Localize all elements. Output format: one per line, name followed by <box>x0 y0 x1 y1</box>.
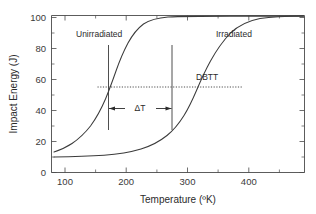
y-tick-label-80: 80 <box>35 43 46 54</box>
x-tick-label-400: 400 <box>241 176 257 187</box>
impact-energy-vs-temperature-chart: 0 20 40 60 80 100 100 200 300 400 Temper… <box>0 0 316 214</box>
y-axis-title: Impact Energy (J) <box>8 55 19 134</box>
x-axis-title: Temperature (ºK) <box>140 194 216 205</box>
delta-t-label: ΔT <box>135 103 146 113</box>
unirradiated-label: Unirradiated <box>76 29 123 39</box>
x-tick-label-300: 300 <box>180 176 196 187</box>
y-tick-label-100: 100 <box>30 12 46 23</box>
chart-background <box>0 0 316 214</box>
chart-figure-page: 0 20 40 60 80 100 100 200 300 400 Temper… <box>0 0 316 214</box>
y-tick-label-0: 0 <box>41 167 46 178</box>
irradiated-label: Irradiated <box>216 29 252 39</box>
dbtt-label: DBTT <box>196 72 218 82</box>
y-tick-label-60: 60 <box>35 74 46 85</box>
x-tick-label-200: 200 <box>118 176 134 187</box>
y-tick-label-20: 20 <box>35 136 46 147</box>
x-tick-label-100: 100 <box>57 176 73 187</box>
y-tick-label-40: 40 <box>35 105 46 116</box>
